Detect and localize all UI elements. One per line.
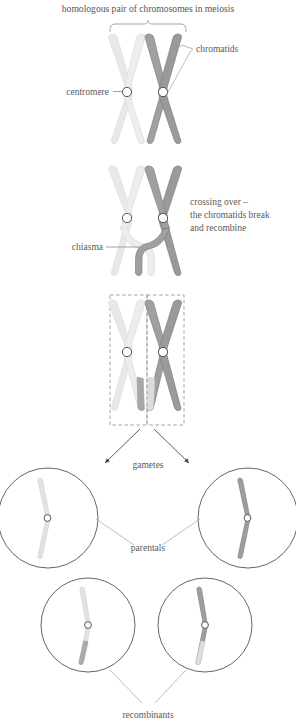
label-recombinants: recombinants	[122, 710, 173, 720]
stage-3-recombined-chromosomes	[105, 295, 189, 463]
centromere-recombinant-right	[202, 622, 209, 629]
chromosome-dark-stage3	[145, 300, 181, 411]
chromosome-light-stage2	[109, 166, 155, 276]
label-crossing-over-line1: crossing over –	[190, 197, 248, 207]
chromosome-light-stage1	[109, 34, 145, 144]
label-crossing-over-line2: the chromatids break	[190, 210, 270, 220]
label-crossing-over-line3: and recombine	[190, 223, 246, 233]
page-title: homologous pair of chromosomes in meiosi…	[62, 3, 235, 14]
gamete-parental-right	[198, 468, 296, 568]
label-gametes: gametes	[132, 460, 163, 470]
centromere-light-stage2	[122, 213, 131, 222]
leader-parentals-right	[162, 519, 200, 545]
label-chiasma: chiasma	[72, 242, 104, 252]
leader-recombinants-right	[155, 670, 186, 703]
chromosome-dark-stage1	[145, 34, 181, 144]
centromere-parental-left	[44, 515, 51, 522]
recombined-segment-dark-on-light	[137, 377, 144, 411]
centromere-light-stage3	[122, 347, 131, 356]
centromere-dark-stage2	[158, 213, 167, 222]
gamete-parental-left	[0, 468, 98, 568]
centromere-parental-right	[244, 515, 251, 522]
centromere-light-stage1	[122, 87, 131, 96]
label-centromere: centromere	[66, 87, 109, 97]
label-parentals: parentals	[131, 543, 166, 553]
leader-parentals-left	[96, 519, 134, 545]
gamete-recombinant-left	[41, 578, 135, 672]
label-chromatids: chromatids	[196, 44, 239, 54]
pair-bracket-icon	[110, 21, 186, 33]
arrow-to-left-gametes	[105, 429, 140, 463]
chromosome-light-stage3	[109, 300, 145, 411]
chromosome-dark-stage2	[135, 166, 181, 276]
recombined-segment-light-on-dark	[147, 377, 155, 411]
meiosis-crossing-over-diagram: homologous pair of chromosomes in meiosi…	[0, 0, 296, 723]
arrow-to-right-gametes	[154, 429, 189, 463]
gamete-recombinant-right	[158, 578, 252, 672]
stage-1-paired-chromosomes: centromere chromatids	[66, 21, 238, 144]
stage-2-crossing-over: crossing over – the chromatids break and…	[72, 166, 270, 276]
stage-4-gametes: gametes parentals	[0, 460, 296, 720]
centromere-recombinant-left	[85, 622, 92, 629]
centromere-dark-stage3	[158, 347, 167, 356]
leader-recombinants-left	[110, 670, 142, 703]
